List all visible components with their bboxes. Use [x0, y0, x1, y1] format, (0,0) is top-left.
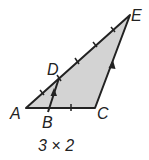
- label-a: A: [9, 105, 21, 122]
- label-d: D: [47, 61, 59, 78]
- label-c: C: [97, 105, 109, 122]
- caption: 3 × 2: [38, 137, 74, 154]
- label-e: E: [131, 7, 142, 24]
- similar-triangles-diagram: E D A B C 3 × 2: [0, 0, 149, 160]
- label-b: B: [42, 114, 53, 131]
